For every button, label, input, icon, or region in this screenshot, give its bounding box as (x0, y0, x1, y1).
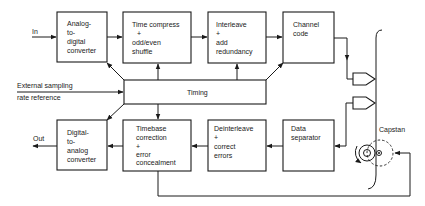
dac-line-1: Digital- (67, 129, 89, 137)
deinterleave-line-1: Deinterleave (214, 125, 253, 132)
deinterleave-line-2: + (214, 134, 218, 141)
timebase-line-1: Timebase (136, 125, 167, 132)
channel-line-2: code (293, 30, 308, 37)
tape-recorder-block-diagram: In Analog- to- digital converter Time co… (0, 0, 425, 206)
out-label: Out (33, 135, 44, 142)
timebase-line-4: error (136, 151, 151, 158)
adc-block: Analog- to- digital converter (57, 12, 107, 62)
timing-label: Timing (187, 89, 208, 97)
time-compress-block: Time compress + odd/even shuffle (123, 12, 191, 63)
timebase-line-5: concealment (136, 159, 176, 166)
compress-line-4: shuffle (132, 48, 153, 55)
dac-line-3: analog (67, 147, 88, 155)
record-head-icon (353, 73, 375, 85)
playback-head-icon (353, 97, 375, 109)
interleave-line-1: Interleave (216, 21, 247, 28)
separator-line-2: separator (291, 134, 321, 142)
timebase-line-2: correction (136, 134, 167, 141)
dac-line-2: to- (67, 138, 76, 145)
external-ref-label-2: rate reference (17, 94, 61, 101)
interleave-line-3: add (216, 39, 228, 46)
deinterleave-block: Deinterleave + correct errors (208, 120, 266, 171)
capstan-icon (355, 140, 393, 166)
interleave-line-4: redundancy (216, 48, 253, 56)
timebase-line-3: + (136, 143, 140, 150)
compress-line-2: + (137, 30, 141, 37)
timebase-block: Timebase correction + error concealment (123, 120, 191, 171)
adc-line-4: converter (67, 47, 97, 54)
tape-path-bottom (368, 175, 376, 189)
compress-line-1: Time compress (132, 21, 180, 29)
timing-to-adc-arrow (107, 63, 124, 80)
in-label: In (32, 28, 38, 35)
capstan-label: Capstan (379, 126, 405, 134)
deinterleave-line-3: correct (214, 143, 235, 150)
separator-line-1: Data (291, 125, 306, 132)
deinterleave-line-4: errors (214, 152, 233, 159)
external-ref-label-1: External sampling (17, 82, 73, 90)
compress-line-3: odd/even (132, 39, 161, 46)
interleave-line-2: + (216, 30, 220, 37)
adc-line-2: to- (67, 29, 76, 36)
dac-block: Digital- to- analog converter (57, 120, 107, 170)
channel-code-block: Channel code (283, 12, 334, 63)
timing-to-dac-arrow (107, 104, 124, 120)
adc-line-3: digital (67, 38, 86, 46)
channel-line-1: Channel (293, 21, 320, 28)
head-to-separator-line (336, 103, 353, 146)
adc-line-1: Analog- (67, 20, 92, 28)
interleave-block: Interleave + add redundancy (208, 12, 266, 63)
timing-to-channel-arrow (266, 63, 283, 80)
channel-to-head-line (334, 38, 347, 58)
dac-line-4: converter (67, 156, 97, 163)
channel-to-head-line-2 (347, 60, 353, 79)
data-separator-block: Data separator (283, 120, 334, 171)
timing-block: Timing (124, 80, 266, 104)
